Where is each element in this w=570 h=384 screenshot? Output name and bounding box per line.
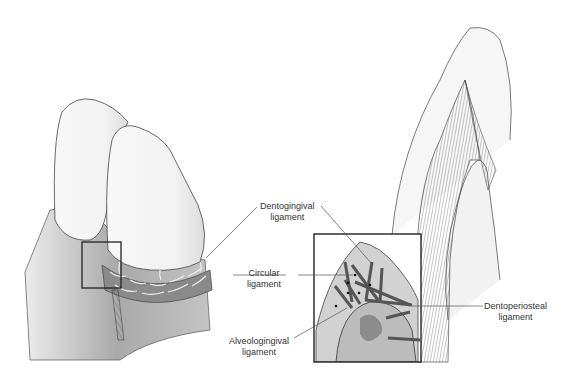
label-circular-line1: Circular <box>247 268 281 279</box>
label-circular-ligament: Circular ligament <box>247 268 281 290</box>
label-dentoperiosteal-ligament: Dentoperiosteal ligament <box>484 301 547 323</box>
label-circular-line2: ligament <box>247 279 281 290</box>
label-dentogingival-line1: Dentogingival <box>260 201 315 212</box>
label-dentogingival-ligament: Dentogingival ligament <box>260 201 315 223</box>
label-alveologingival-line1: Alveologingival <box>229 336 289 347</box>
label-dentoperiosteal-line1: Dentoperiosteal <box>484 301 547 312</box>
label-alveologingival-line2: ligament <box>229 347 289 358</box>
label-dentoperiosteal-line2: ligament <box>484 312 547 323</box>
label-dentogingival-line2: ligament <box>260 212 315 223</box>
label-alveologingival-ligament: Alveologingival ligament <box>229 336 289 358</box>
inset-magnified-view <box>314 234 421 362</box>
diagram-canvas <box>0 0 570 384</box>
left-teeth-illustration <box>25 99 212 360</box>
